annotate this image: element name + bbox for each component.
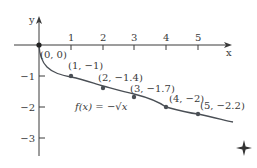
data-point [196, 112, 200, 116]
point-label: (5, −2.2) [200, 100, 245, 111]
x-tick-label: 4 [163, 32, 169, 43]
point-label: (2, −1.4) [98, 72, 143, 83]
data-point [69, 74, 73, 78]
x-axis-label: x [226, 47, 232, 58]
chart: x y 1 2 3 4 5 −1 −2 −3 (0, 0) (1, −1) (2… [0, 0, 257, 168]
y-tick-label: −3 [20, 133, 35, 144]
y-tick-label: −2 [20, 102, 35, 113]
x-tick-label: 1 [68, 32, 74, 43]
data-point [36, 42, 41, 47]
y-tick-label: −1 [20, 71, 35, 82]
data-point [164, 105, 168, 109]
data-point [132, 95, 136, 99]
x-tick-label: 3 [131, 32, 137, 43]
point-label: (0, 0) [40, 49, 67, 60]
x-tick-label: 2 [100, 32, 106, 43]
star-icon [236, 140, 252, 156]
function-label: f(x) = −√x [74, 101, 128, 112]
point-label: (1, −1) [68, 60, 103, 71]
x-tick-label: 5 [195, 32, 201, 43]
y-axis-label: y [28, 14, 35, 25]
data-point [101, 86, 105, 90]
